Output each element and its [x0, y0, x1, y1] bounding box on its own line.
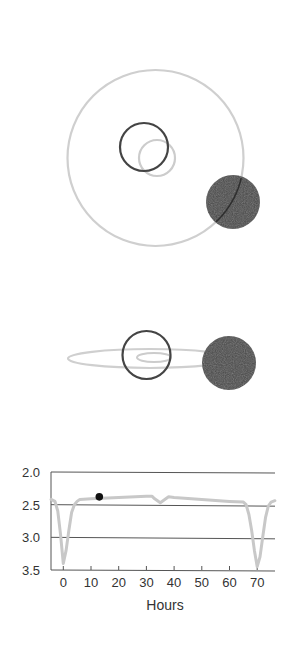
- x-tick-label: 60: [222, 575, 236, 590]
- x-tick-label: 70: [250, 575, 264, 590]
- current-position-marker: [96, 493, 104, 501]
- x-axis-ticks: 010203040506070: [60, 566, 265, 590]
- gridlines: [51, 472, 275, 539]
- dark-ball: [202, 336, 256, 390]
- x-tick-label: 10: [84, 575, 98, 590]
- top-view-diagram: [68, 70, 261, 246]
- x-tick-label: 0: [60, 575, 67, 590]
- dark-ring: [123, 331, 171, 379]
- x-axis-line: [51, 570, 275, 571]
- x-tick-label: 50: [195, 575, 209, 590]
- x-tick-label: 20: [111, 575, 125, 590]
- x-tick-label: 30: [139, 575, 153, 590]
- y-axis-ticks: 2.02.53.03.5: [22, 465, 40, 578]
- light-curve-chart: 2.02.53.03.5 010203040506070 Hours: [22, 465, 275, 613]
- figure-canvas: 2.02.53.03.5 010203040506070 Hours: [0, 0, 308, 652]
- gridline: [51, 472, 275, 473]
- side-view-diagram: [68, 331, 256, 390]
- y-tick-label: 2.5: [22, 498, 40, 513]
- orbit-inner-ellipse: [137, 353, 171, 362]
- gridline: [51, 505, 275, 507]
- y-tick-label: 2.0: [22, 465, 40, 480]
- y-tick-label: 3.0: [22, 530, 40, 545]
- dark-ball: [206, 175, 260, 229]
- light-curve-line: [51, 496, 275, 567]
- gridline: [51, 537, 275, 539]
- y-tick-label: 3.5: [22, 563, 40, 578]
- x-tick-label: 40: [167, 575, 181, 590]
- x-axis-title: Hours: [146, 597, 183, 613]
